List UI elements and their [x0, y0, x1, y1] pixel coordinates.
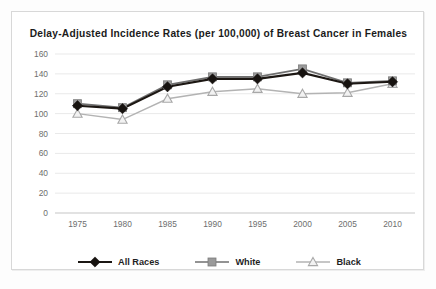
legend-label-allraces: All Races: [118, 257, 159, 267]
legend-item-allraces[interactable]: All Races: [76, 255, 159, 269]
x-axis-tick-label: 1995: [248, 219, 267, 229]
x-axis-tick-label: 2010: [383, 219, 402, 229]
legend-marker-allraces: [90, 257, 100, 267]
legend-marker-white: [208, 258, 216, 266]
legend-swatch-white: [193, 255, 231, 269]
y-axis-tick-label: 80: [39, 129, 49, 139]
x-axis-tick-label: 1985: [158, 219, 177, 229]
chart-card: Delay-Adjusted Incidence Rates (per 100,…: [11, 11, 424, 270]
y-axis-tick-label: 120: [34, 89, 48, 99]
x-axis-tick-label: 2000: [293, 219, 312, 229]
legend-swatch-allraces: [76, 255, 114, 269]
y-axis-tick-label: 0: [43, 208, 48, 218]
y-axis-tick-label: 60: [39, 148, 49, 158]
legend-swatch-black: [294, 255, 332, 269]
y-axis-tick-label: 20: [39, 188, 49, 198]
y-axis-tick-label: 140: [34, 69, 48, 79]
y-axis-tick-label: 160: [34, 49, 48, 59]
x-axis-tick-label: 1990: [203, 219, 222, 229]
series-line-black: [78, 84, 393, 120]
series-line-white: [78, 69, 393, 108]
x-axis-tick-label: 1980: [113, 219, 132, 229]
x-axis-tick-label: 2005: [338, 219, 357, 229]
legend-item-white[interactable]: White: [193, 255, 260, 269]
y-axis-tick-label: 40: [39, 168, 49, 178]
y-axis-tick-label: 100: [34, 109, 48, 119]
chart-screenshot: Delay-Adjusted Incidence Rates (per 100,…: [0, 0, 436, 289]
legend-item-black[interactable]: Black: [294, 255, 361, 269]
x-axis-tick-label: 1975: [68, 219, 87, 229]
legend-label-black: Black: [336, 257, 361, 267]
chart-legend: All RacesWhiteBlack: [12, 255, 425, 269]
legend-label-white: White: [235, 257, 260, 267]
line-chart-plot: 0204060801001201401601975198019851990199…: [12, 12, 425, 271]
